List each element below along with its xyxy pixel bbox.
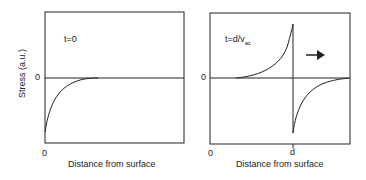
right-title-main: t=d/v	[225, 34, 245, 44]
right-positive-lobe	[236, 24, 293, 78]
right-x-tick-d: d	[290, 147, 295, 157]
left-panel-title: t=0	[64, 34, 77, 44]
right-x-tick-0: 0	[208, 148, 213, 158]
diagram-canvas	[0, 0, 366, 180]
left-x-axis-label: Distance from surface	[68, 159, 156, 169]
right-x-axis-label: Distance from surface	[236, 159, 324, 169]
left-stress-curve	[45, 78, 98, 132]
y-axis-label: Stress (a.u.)	[17, 49, 27, 98]
right-panel-title: t=d/vac	[225, 34, 251, 46]
left-x-tick-0: 0	[42, 148, 47, 158]
propagation-arrow-icon	[306, 50, 325, 60]
left-zero-tick: 0	[35, 72, 40, 82]
right-title-sub: ac	[245, 40, 251, 46]
right-zero-tick: 0	[201, 72, 206, 82]
right-negative-lobe	[293, 78, 349, 133]
